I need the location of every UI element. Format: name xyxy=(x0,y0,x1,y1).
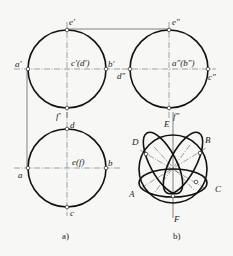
label-a-double-prime-b-double-prime: a″(b″) xyxy=(172,58,195,68)
point-C-marker xyxy=(194,180,198,184)
label-D: D xyxy=(131,137,139,147)
label-F: F xyxy=(173,214,180,224)
label-b: b xyxy=(108,158,113,168)
top-view: d a b c e(f) xyxy=(14,112,120,218)
point-B-marker xyxy=(198,151,202,155)
caption-a: a) xyxy=(62,231,69,241)
label-c-double-prime: c″ xyxy=(208,72,216,82)
point-a xyxy=(26,166,30,170)
point-c-double-prime xyxy=(206,67,210,71)
point-D-marker xyxy=(144,152,148,156)
label-b-prime: b′ xyxy=(108,59,116,69)
label-E: E xyxy=(163,119,170,129)
caption-b: b) xyxy=(173,231,181,241)
side-view: e″ d″ c″ f″ a″(b″) xyxy=(117,17,216,121)
point-d-double-prime xyxy=(128,67,132,71)
label-a: a xyxy=(18,170,23,180)
label-c-prime-d-prime: c′(d′) xyxy=(71,58,89,68)
point-d xyxy=(65,127,69,131)
label-f-double-prime: f″ xyxy=(173,111,180,121)
point-a-prime xyxy=(26,67,30,71)
point-F-marker xyxy=(171,194,175,198)
label-a-prime: a′ xyxy=(15,59,23,69)
label-A: A xyxy=(128,189,135,199)
point-f-double-prime xyxy=(167,106,171,110)
diagram-canvas: e′ a′ b′ f′ c′(d′) e″ d″ c″ f″ a″(b″) d … xyxy=(0,0,233,256)
label-e-double-prime: e″ xyxy=(172,17,180,27)
label-f-prime: f′ xyxy=(56,111,62,121)
point-f-prime xyxy=(65,106,69,110)
front-view: e′ a′ b′ f′ c′(d′) xyxy=(14,17,120,121)
label-B: B xyxy=(205,135,211,145)
label-d-double-prime: d″ xyxy=(117,71,126,81)
point-c xyxy=(65,205,69,209)
label-d: d xyxy=(70,120,75,130)
label-C: C xyxy=(215,184,222,194)
point-e-double-prime xyxy=(167,28,171,32)
sphere-projection-diagram: e′ a′ b′ f′ c′(d′) e″ d″ c″ f″ a″(b″) d … xyxy=(0,0,233,256)
sphere-view: E D B C A F xyxy=(128,112,222,224)
label-e-prime: e′ xyxy=(69,17,76,27)
label-c: c xyxy=(70,208,74,218)
label-e-f: e(f) xyxy=(72,157,85,167)
point-e-prime xyxy=(65,28,69,32)
